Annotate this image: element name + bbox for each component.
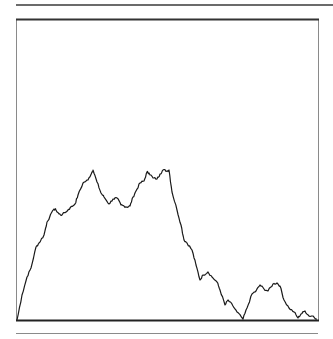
line-chart — [0, 0, 333, 339]
series-layer — [17, 170, 317, 321]
plot-frame — [17, 20, 319, 321]
series-line-walk — [17, 170, 317, 321]
bottom-rule — [16, 333, 318, 334]
